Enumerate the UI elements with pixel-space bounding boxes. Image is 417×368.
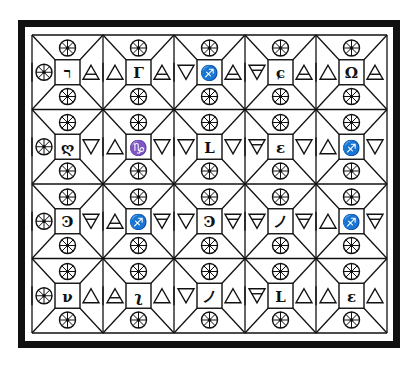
grid-cell: ʅ [103,259,174,334]
grid-cell: ノ [245,184,316,259]
sigil-glyph: Ω [345,64,358,82]
grid-cell: ɕ [245,35,316,110]
grid-cell: L [174,110,245,185]
sigil-glyph: ε [347,288,356,306]
water-triangle-icon [367,140,383,154]
air-triangle-icon [107,214,123,228]
air-triangle-icon [107,289,123,303]
sigil-glyph: ν [62,288,72,306]
water-triangle-icon [154,140,170,154]
earth-triangle-icon [83,214,99,228]
wheel-icon [344,40,360,56]
sigil-glyph: ♐ [342,139,361,157]
water-triangle-icon [178,289,194,303]
fire-triangle-icon [296,289,312,303]
grid-cell: Ͽ [174,184,245,259]
sigil-glyph: ʅ [134,288,142,306]
wheel-icon [60,189,76,205]
grid-cell: ♐ [174,35,245,110]
wheel-icon [60,312,76,328]
wheel-icon [273,189,289,205]
wheel-icon [60,264,76,280]
fire-triangle-icon [154,289,170,303]
fire-triangle-icon [83,289,99,303]
air-triangle-icon [296,65,312,79]
sigil-glyph: ノ [202,288,217,306]
grid-cell: ν [32,259,103,334]
wheel-icon [60,89,76,105]
grid-cell: L [245,259,316,334]
wheel-icon [344,115,360,131]
water-triangle-icon [178,214,194,228]
wheel-icon [60,40,76,56]
wheel-icon [131,89,147,105]
wheel-icon [344,89,360,105]
fire-triangle-icon [225,289,241,303]
grid-cell: Γ [103,35,174,110]
grid-cell: ♐ [316,110,387,185]
wheel-icon [344,238,360,254]
wheel-icon [131,163,147,179]
wheel-icon [36,64,52,80]
earth-triangle-icon [249,214,265,228]
fire-triangle-icon [107,65,123,79]
earth-triangle-icon [249,140,265,154]
wheel-icon [273,89,289,105]
grid-cell: Ͽ [32,184,103,259]
wheel-icon [131,115,147,131]
grid-cell: ר [32,35,103,110]
grid-cell: ε [245,110,316,185]
air-triangle-icon [83,65,99,79]
wheel-icon [344,264,360,280]
wheel-icon [60,238,76,254]
sigil-glyph: ღ [61,139,75,157]
air-triangle-icon [367,65,383,79]
wheel-icon [202,89,218,105]
grid-cell: ノ [174,259,245,334]
grid-cell: ღ [32,110,103,185]
wheel-icon [36,139,52,155]
air-triangle-icon [225,65,241,79]
earth-triangle-icon [154,214,170,228]
wheel-icon [202,312,218,328]
wheel-icon [202,264,218,280]
wheel-icon [344,163,360,179]
wheel-icon [202,115,218,131]
fire-triangle-icon [320,65,336,79]
water-triangle-icon [225,140,241,154]
wheel-icon [131,40,147,56]
wheel-icon [344,189,360,205]
wheel-icon [36,213,52,229]
wheel-icon [131,238,147,254]
grid-cell: ♑ [103,110,174,185]
fire-triangle-icon [320,214,336,228]
grid-cell: Ω [316,35,387,110]
wheel-icon [131,189,147,205]
wheel-icon [273,264,289,280]
fire-triangle-icon [367,289,383,303]
wheel-icon [273,40,289,56]
earth-triangle-icon [225,214,241,228]
earth-triangle-icon [249,65,265,79]
grid-cell: ♐ [316,184,387,259]
sigil-glyph: ♐ [200,64,219,82]
sigil-glyph: L [204,139,215,157]
fire-triangle-icon [320,289,336,303]
wheel-icon [202,40,218,56]
wheel-icon [202,189,218,205]
sigil-glyph: L [275,288,286,306]
water-triangle-icon [83,140,99,154]
sigil-glyph: Ͽ [62,213,74,231]
wheel-icon [131,264,147,280]
wheel-icon [131,312,147,328]
air-triangle-icon [154,65,170,79]
talisman-grid-diagram: רΓ♐ɕΩღ♑Lε♐Ͽ♐Ͽノ♐νʅノLε [0,0,417,368]
fire-triangle-icon [320,140,336,154]
sigil-glyph: Γ [133,64,144,82]
sigil-glyph: ε [276,139,285,157]
earth-triangle-icon [296,214,312,228]
wheel-icon [273,163,289,179]
earth-triangle-icon [367,214,383,228]
sigil-glyph: ♐ [342,213,361,231]
wheel-icon [344,312,360,328]
